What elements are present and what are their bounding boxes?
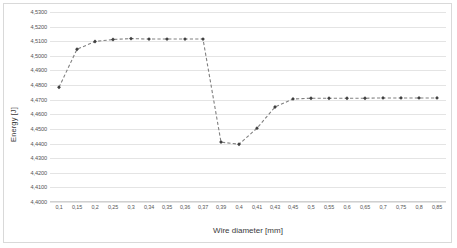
x-axis-tick-label: 0,7 (379, 204, 386, 210)
data-point-marker (147, 37, 151, 41)
y-axis-tick-label: 4,5200 (30, 24, 47, 30)
data-point-marker (201, 37, 205, 41)
data-point-marker (183, 37, 187, 41)
x-axis-tick-label: 0,25 (108, 204, 118, 210)
x-axis-tick-label: 0,3 (127, 204, 134, 210)
x-axis-tick-label: 0,1 (55, 204, 62, 210)
data-point-marker (363, 96, 367, 100)
x-axis-tick-label: 0,55 (324, 204, 334, 210)
y-axis-tick-label: 4,4100 (30, 184, 47, 190)
x-axis-tick-label: 0,15 (72, 204, 82, 210)
gridline (50, 202, 446, 203)
data-point-marker (435, 96, 439, 100)
x-axis-tick-label: 0,35 (162, 204, 172, 210)
data-point-marker (129, 37, 133, 41)
x-axis-tick-label: 0,85 (432, 204, 442, 210)
x-axis-tick-label: 0,41 (252, 204, 262, 210)
chart-container: Energy [J] 4,53004,52004,51004,50004,490… (3, 3, 452, 243)
data-point-marker (417, 96, 421, 100)
y-axis-tick-label: 4,4400 (30, 141, 47, 147)
x-axis-tick-label: 0,36 (180, 204, 190, 210)
y-axis-tick-labels: 4,53004,52004,51004,50004,49004,48004,47… (18, 4, 49, 244)
data-point-marker (219, 140, 223, 144)
y-axis-tick-label: 4,4900 (30, 67, 47, 73)
y-axis-tick-label: 4,4600 (30, 111, 47, 117)
data-point-marker (75, 47, 79, 51)
x-axis-tick-label: 0,2 (91, 204, 98, 210)
x-axis-tick-label: 0,65 (360, 204, 370, 210)
data-point-marker (309, 96, 313, 100)
x-axis-tick-label: 0,37 (198, 204, 208, 210)
data-point-marker (165, 37, 169, 41)
x-axis-tick-label: 0,8 (415, 204, 422, 210)
x-axis-tick-label: 0,39 (216, 204, 226, 210)
x-axis-tick-label: 0,4 (235, 204, 242, 210)
y-axis-tick-label: 4,5300 (30, 9, 47, 15)
data-series-energy (50, 12, 446, 202)
data-point-marker (291, 97, 295, 101)
data-point-marker (327, 96, 331, 100)
y-axis-tick-label: 4,5100 (30, 38, 47, 44)
data-point-marker (93, 40, 97, 44)
plot-area (50, 12, 446, 202)
y-axis-tick-label: 4,4300 (30, 155, 47, 161)
x-axis-tick-labels: 0,10,150,20,250,30,340,350,360,370,390,4… (50, 204, 446, 218)
data-point-marker (381, 96, 385, 100)
x-axis-tick-label: 0,75 (396, 204, 406, 210)
x-axis-tick-label: 0,45 (288, 204, 298, 210)
x-axis-tick-label: 0,5 (307, 204, 314, 210)
data-point-marker (345, 96, 349, 100)
y-axis-title-label: Energy [J] (9, 107, 18, 142)
x-axis-tick-label: 0,43 (270, 204, 280, 210)
x-axis-tick-label: 0,34 (144, 204, 154, 210)
series-line (59, 39, 437, 145)
y-axis-tick-label: 4,5000 (30, 53, 47, 59)
data-point-marker (57, 85, 61, 89)
y-axis-tick-label: 4,4000 (30, 199, 47, 205)
data-point-marker (111, 38, 115, 42)
data-point-marker (399, 96, 403, 100)
y-axis-tick-label: 4,4800 (30, 82, 47, 88)
y-axis-tick-label: 4,4500 (30, 126, 47, 132)
x-axis-tick-label: 0,6 (343, 204, 350, 210)
x-axis-title: Wire diameter [mm] (50, 226, 446, 235)
y-axis-tick-label: 4,4700 (30, 97, 47, 103)
y-axis-tick-label: 4,4200 (30, 170, 47, 176)
